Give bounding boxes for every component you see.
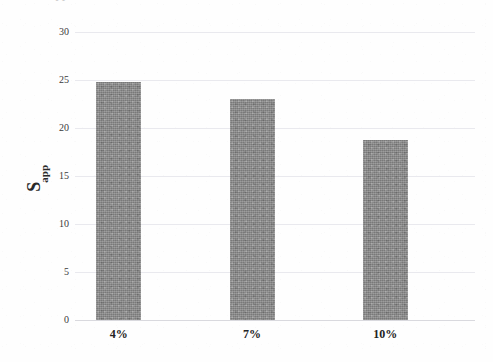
y-tick-label-10: 10 (43, 219, 69, 229)
cropped-caption-text: S app (40, 0, 69, 1)
gridline-y-25 (75, 80, 475, 81)
y-tick-label-20: 20 (43, 123, 69, 133)
x-axis-tick-labels: 4%7%10% (75, 328, 475, 350)
bar-10pct (363, 140, 408, 320)
x-tick-label-10pct: 10% (345, 328, 425, 340)
y-axis-tick-labels: 051015202530 (41, 32, 69, 320)
y-tick-label-30: 30 (43, 27, 69, 37)
bar-7pct (230, 99, 275, 320)
chart-page: S app Sapp 051015202530 4%7%10% (0, 0, 493, 362)
y-tick-label-15: 15 (43, 171, 69, 181)
bar-4pct (96, 82, 141, 320)
x-tick-label-4pct: 4% (79, 328, 159, 340)
y-tick-label-0: 0 (43, 315, 69, 325)
x-tick-label-7pct: 7% (212, 328, 292, 340)
x-axis-baseline (75, 320, 475, 321)
y-tick-label-25: 25 (43, 75, 69, 85)
y-tick-label-5: 5 (43, 267, 69, 277)
gridline-y-30 (75, 32, 475, 33)
cropped-caption-sliver: S app (0, 0, 493, 11)
plot-area (75, 32, 475, 320)
